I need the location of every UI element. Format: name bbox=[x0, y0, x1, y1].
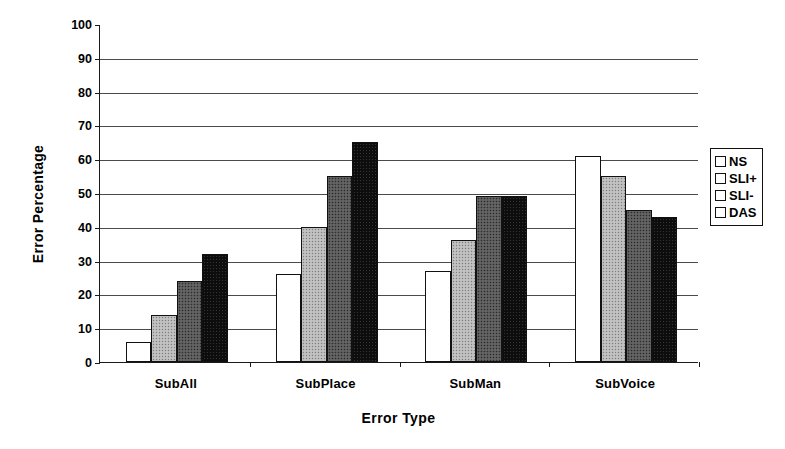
x-tick-label: SubMan bbox=[449, 376, 501, 391]
bar bbox=[276, 274, 302, 362]
legend-swatch-icon bbox=[715, 190, 726, 201]
bar bbox=[626, 210, 652, 362]
y-tick-label: 50 bbox=[52, 187, 92, 201]
bar bbox=[451, 240, 477, 362]
bar bbox=[476, 196, 502, 362]
bar bbox=[601, 176, 627, 362]
x-tick-label: SubVoice bbox=[595, 376, 655, 391]
bar bbox=[502, 196, 528, 362]
y-tick-mark bbox=[95, 363, 100, 364]
bar bbox=[126, 342, 152, 362]
x-tick-label: SubPlace bbox=[296, 376, 356, 391]
bar bbox=[425, 271, 451, 362]
bar bbox=[352, 142, 378, 362]
y-tick-label: 40 bbox=[52, 221, 92, 235]
y-tick-label: 90 bbox=[52, 52, 92, 66]
legend-label: NS bbox=[729, 155, 747, 168]
legend-item: NS bbox=[715, 153, 757, 170]
x-tick-label: SubAll bbox=[155, 376, 197, 391]
legend-swatch-icon bbox=[715, 156, 726, 167]
bar bbox=[575, 156, 601, 362]
legend-swatch-icon bbox=[715, 173, 726, 184]
y-tick-label: 20 bbox=[52, 288, 92, 302]
legend: NSSLI+SLI-DAS bbox=[710, 148, 763, 226]
legend-label: SLI- bbox=[729, 189, 754, 202]
legend-label: DAS bbox=[729, 206, 756, 219]
x-tick-mark bbox=[400, 362, 401, 367]
y-axis-title: Error Percentage bbox=[30, 104, 46, 304]
x-tick-mark bbox=[250, 362, 251, 367]
bar bbox=[327, 176, 353, 362]
x-tick-mark bbox=[699, 362, 700, 367]
y-tick-label: 0 bbox=[52, 356, 92, 370]
legend-swatch-icon bbox=[715, 207, 726, 218]
y-tick-label: 100 bbox=[52, 18, 92, 32]
legend-label: SLI+ bbox=[729, 172, 757, 185]
bars-layer bbox=[100, 25, 698, 362]
x-axis-title: Error Type bbox=[99, 410, 698, 426]
bar bbox=[202, 254, 228, 362]
x-tick-mark bbox=[549, 362, 550, 367]
y-tick-label: 80 bbox=[52, 86, 92, 100]
plot-area bbox=[99, 25, 698, 363]
bar bbox=[151, 315, 177, 362]
bar bbox=[177, 281, 203, 362]
bar bbox=[301, 227, 327, 362]
y-tick-label: 10 bbox=[52, 322, 92, 336]
y-axis-tick-labels: 0102030405060708090100 bbox=[52, 25, 92, 363]
legend-item: DAS bbox=[715, 204, 757, 221]
y-tick-label: 70 bbox=[52, 119, 92, 133]
x-axis-tick-labels: SubAllSubPlaceSubManSubVoice bbox=[99, 376, 698, 398]
y-tick-label: 60 bbox=[52, 153, 92, 167]
bar bbox=[652, 217, 678, 362]
legend-item: SLI+ bbox=[715, 170, 757, 187]
y-tick-label: 30 bbox=[52, 255, 92, 269]
bar-chart: Error Percentage 0102030405060708090100 … bbox=[0, 0, 785, 449]
legend-item: SLI- bbox=[715, 187, 757, 204]
